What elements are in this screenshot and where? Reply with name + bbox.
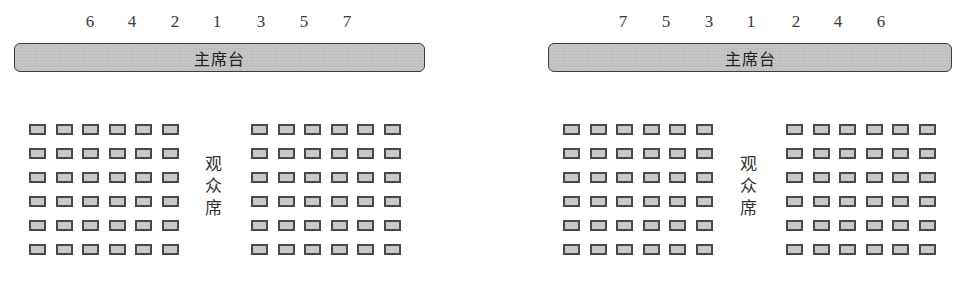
audience-label-char: 众 bbox=[738, 175, 758, 197]
audience-seat bbox=[866, 244, 883, 255]
audience-seat bbox=[892, 196, 909, 207]
audience-seat bbox=[839, 172, 856, 183]
audience-seat bbox=[786, 220, 803, 231]
audience-seat bbox=[839, 244, 856, 255]
audience-seat bbox=[839, 148, 856, 159]
audience-seat bbox=[669, 244, 686, 255]
audience-seat bbox=[919, 196, 936, 207]
audience-seat bbox=[813, 244, 830, 255]
audience-seat bbox=[616, 148, 633, 159]
audience-seat bbox=[892, 124, 909, 135]
audience-seat bbox=[696, 196, 713, 207]
audience-seat bbox=[643, 124, 660, 135]
audience-seat bbox=[839, 196, 856, 207]
audience-seat bbox=[643, 244, 660, 255]
audience-seat bbox=[786, 244, 803, 255]
audience-seat bbox=[839, 124, 856, 135]
audience-seat bbox=[590, 220, 607, 231]
audience-seat bbox=[892, 220, 909, 231]
audience-seat-block-left bbox=[563, 124, 713, 255]
audience-seat bbox=[563, 220, 580, 231]
audience-seat bbox=[669, 220, 686, 231]
audience-seat bbox=[919, 148, 936, 159]
audience-seat bbox=[786, 124, 803, 135]
audience-seat-block-right bbox=[786, 124, 936, 255]
audience-seat bbox=[590, 148, 607, 159]
audience-seat bbox=[696, 244, 713, 255]
audience-seat bbox=[590, 196, 607, 207]
audience-seat bbox=[786, 148, 803, 159]
audience-label: 观 众 席 bbox=[738, 153, 758, 219]
audience-seat bbox=[919, 220, 936, 231]
audience-seat bbox=[696, 172, 713, 183]
seat-number: 2 bbox=[786, 12, 806, 32]
audience-seat bbox=[669, 124, 686, 135]
audience-seat bbox=[786, 196, 803, 207]
audience-seat bbox=[813, 220, 830, 231]
audience-seat bbox=[892, 244, 909, 255]
audience-seat bbox=[563, 124, 580, 135]
audience-seat bbox=[590, 172, 607, 183]
seat-number: 6 bbox=[871, 12, 891, 32]
audience-seat bbox=[669, 196, 686, 207]
audience-seat bbox=[919, 124, 936, 135]
audience-seat bbox=[866, 196, 883, 207]
seat-number: 1 bbox=[741, 12, 761, 32]
audience-seat bbox=[919, 244, 936, 255]
audience-seat bbox=[616, 172, 633, 183]
audience-label-char: 观 bbox=[738, 153, 758, 175]
seat-number: 3 bbox=[699, 12, 719, 32]
audience-seat bbox=[616, 220, 633, 231]
audience-seat bbox=[563, 172, 580, 183]
seat-number: 7 bbox=[613, 12, 633, 32]
audience-seat bbox=[813, 172, 830, 183]
audience-seat bbox=[866, 220, 883, 231]
audience-seat bbox=[563, 244, 580, 255]
audience-seat bbox=[643, 220, 660, 231]
audience-seat bbox=[892, 172, 909, 183]
audience-seat bbox=[616, 196, 633, 207]
seat-number: 4 bbox=[828, 12, 848, 32]
stage-label: 主席台 bbox=[725, 46, 776, 70]
audience-seat bbox=[669, 148, 686, 159]
audience-seat bbox=[696, 220, 713, 231]
audience-seat bbox=[616, 244, 633, 255]
audience-seat bbox=[669, 172, 686, 183]
audience-seat bbox=[813, 196, 830, 207]
audience-seat bbox=[590, 244, 607, 255]
audience-seat bbox=[839, 220, 856, 231]
audience-seat bbox=[590, 124, 607, 135]
seat-number: 5 bbox=[656, 12, 676, 32]
audience-seat bbox=[643, 196, 660, 207]
audience-seat bbox=[892, 148, 909, 159]
audience-seat bbox=[866, 148, 883, 159]
audience-seat bbox=[696, 124, 713, 135]
audience-seat bbox=[696, 148, 713, 159]
audience-seat bbox=[919, 172, 936, 183]
audience-seat bbox=[866, 172, 883, 183]
audience-seat bbox=[643, 148, 660, 159]
audience-seat bbox=[563, 196, 580, 207]
seating-diagram-right: 7 5 3 1 2 4 6 主席台 观 众 席 bbox=[0, 0, 957, 286]
audience-seat bbox=[813, 124, 830, 135]
audience-seat bbox=[866, 124, 883, 135]
audience-label-char: 席 bbox=[738, 197, 758, 219]
audience-seat bbox=[786, 172, 803, 183]
audience-seat bbox=[563, 148, 580, 159]
audience-seat bbox=[616, 124, 633, 135]
podium-stage: 主席台 bbox=[548, 43, 952, 72]
audience-seat bbox=[813, 148, 830, 159]
audience-seat bbox=[643, 172, 660, 183]
